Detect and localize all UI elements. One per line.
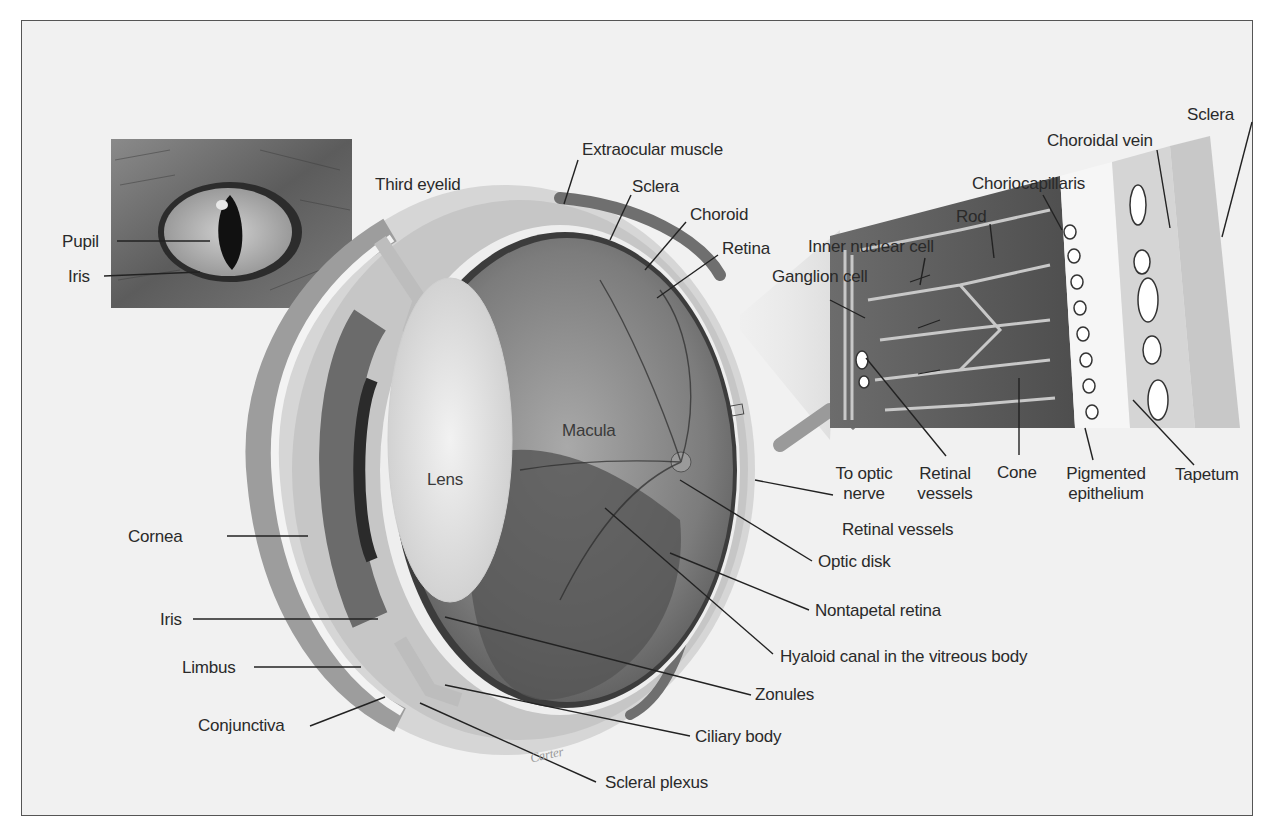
label-choroid: Choroid bbox=[690, 206, 748, 223]
label-scleral-plexus: Scleral plexus bbox=[605, 774, 708, 791]
label-choroidal-vein: Choroidal vein bbox=[1047, 132, 1153, 149]
label-pigmented-epithelium: Pigmented epithelium bbox=[1058, 464, 1154, 505]
label-third-eyelid: Third eyelid bbox=[375, 176, 460, 193]
label-to-optic-nerve: To optic nerve bbox=[829, 464, 899, 505]
label-lens: Lens bbox=[427, 471, 463, 488]
label-cornea: Cornea bbox=[128, 528, 183, 545]
label-ciliary-body: Ciliary body bbox=[695, 728, 781, 745]
label-limbus: Limbus bbox=[182, 659, 236, 676]
label-retina: Retina bbox=[722, 240, 770, 257]
label-optic-disk: Optic disk bbox=[818, 553, 891, 570]
label-ganglion-cell: Ganglion cell bbox=[772, 268, 868, 285]
label-zonules: Zonules bbox=[755, 686, 814, 703]
label-conjunctiva: Conjunctiva bbox=[198, 717, 285, 734]
label-nontapetal-retina: Nontapetal retina bbox=[815, 602, 941, 619]
label-choriocapillaris: Choriocapillaris bbox=[972, 175, 1085, 192]
label-iris-photo: Iris bbox=[68, 268, 90, 285]
label-extraocular-muscle: Extraocular muscle bbox=[582, 141, 723, 158]
label-inner-nuclear-cell: Inner nuclear cell bbox=[808, 238, 934, 255]
eyeball-cross-section bbox=[255, 185, 755, 755]
label-hyaloid-canal: Hyaloid canal in the vitreous body bbox=[780, 648, 1027, 665]
label-detail-sclera: Sclera bbox=[1187, 106, 1234, 123]
label-sclera: Sclera bbox=[632, 178, 679, 195]
label-retinal-vessels: Retinal vessels bbox=[842, 521, 953, 538]
eye-illustration bbox=[0, 0, 1270, 829]
label-rod: Rod bbox=[956, 208, 987, 225]
label-macula: Macula bbox=[562, 422, 616, 439]
label-pupil: Pupil bbox=[62, 233, 99, 250]
label-detail-retinal-vessels: Retinal vessels bbox=[913, 464, 977, 505]
label-cone: Cone bbox=[997, 464, 1037, 481]
label-tapetum: Tapetum bbox=[1175, 466, 1239, 483]
label-iris: Iris bbox=[160, 611, 182, 628]
